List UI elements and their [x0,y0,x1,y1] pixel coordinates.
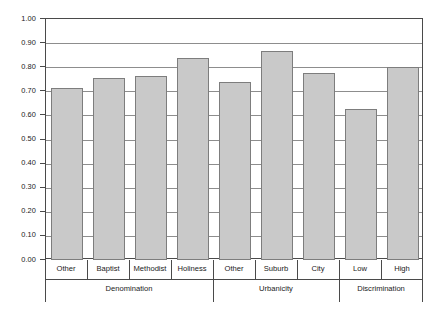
group-label: Urbanicity [213,284,339,293]
category-separator [129,260,130,279]
category-separator [297,260,298,279]
category-label: City [297,264,339,273]
group-label: Discrimination [339,284,423,293]
y-axis-tick-label: 0.70 [4,86,36,95]
y-axis-line [45,18,46,259]
y-axis-tick-label: 1.00 [4,14,36,23]
bar [345,109,377,260]
y-axis-tick-label: 0.30 [4,182,36,191]
bar [93,78,125,260]
category-separator [381,260,382,279]
category-label: Other [213,264,255,273]
category-axis: OtherBaptistMethodistHolinessOtherSuburb… [45,259,423,280]
y-axis-tick-label: 0.50 [4,134,36,143]
group-separator [339,280,340,302]
bar [51,88,83,260]
bar [387,67,419,260]
category-separator [213,260,214,279]
bar-chart: 0.000.100.200.300.400.500.600.700.800.90… [0,0,442,316]
plot-area [45,18,423,259]
bar [261,51,293,260]
category-separator [255,260,256,279]
y-axis-tick-label: 0.90 [4,38,36,47]
bar [135,76,167,260]
axis-right-edge [422,259,423,302]
bar [219,82,251,260]
category-label: Low [339,264,381,273]
group-separator [213,280,214,302]
group-axis: DenominationUrbanicityDiscrimination [45,280,423,302]
gridline [46,43,422,44]
category-label: Suburb [255,264,297,273]
category-label: Other [45,264,87,273]
gridline [46,67,422,68]
category-label: High [381,264,423,273]
y-axis-tick-label: 0.80 [4,62,36,71]
y-axis-tick-label: 0.10 [4,230,36,239]
category-separator [171,260,172,279]
category-label: Baptist [87,264,129,273]
bar [303,73,335,260]
category-separator [339,260,340,279]
group-label: Denomination [45,284,213,293]
category-label: Holiness [171,264,213,273]
category-label: Methodist [129,264,171,273]
bar [177,58,209,260]
category-separator [87,260,88,279]
y-axis-tick-label: 0.20 [4,206,36,215]
axis-left-edge [45,259,46,302]
y-axis-tick-label: 0.40 [4,158,36,167]
y-axis-tick-label: 0.60 [4,110,36,119]
y-axis-tick-label: 0.00 [4,255,36,264]
